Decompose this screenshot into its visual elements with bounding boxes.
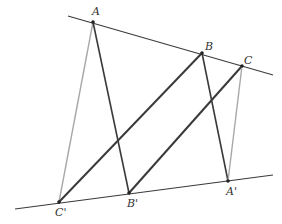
point-A-prime <box>226 179 230 183</box>
point-B-prime <box>127 191 131 195</box>
label-A: A <box>91 5 100 18</box>
segment-A-Cp <box>59 22 93 202</box>
segments-group <box>59 22 242 202</box>
label-A-prime: A' <box>225 185 237 198</box>
label-C: C <box>244 54 253 67</box>
point-A <box>91 20 95 24</box>
segment-B-Ap <box>202 53 228 181</box>
segment-C-Bp <box>129 66 242 193</box>
geometry-diagram: ABCC'B'A' <box>0 0 282 224</box>
segment-A-Bp <box>93 22 129 193</box>
label-B-prime: B' <box>126 197 138 210</box>
segment-C-Ap <box>228 66 242 181</box>
label-B: B <box>204 40 213 53</box>
points-group: ABCC'B'A' <box>55 5 253 219</box>
point-B <box>200 51 204 55</box>
point-C-prime <box>57 200 61 204</box>
segment-B-Cp <box>59 53 202 202</box>
label-C-prime: C' <box>55 206 66 219</box>
